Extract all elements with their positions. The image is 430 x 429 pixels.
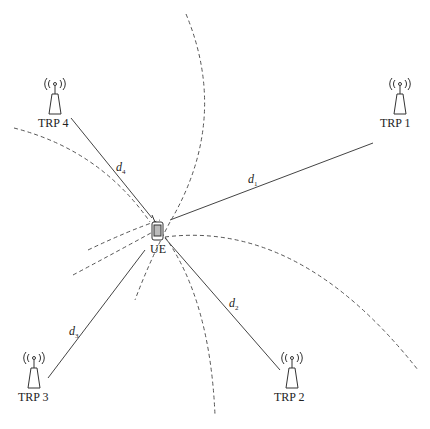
trp4-antenna-icon [45, 78, 66, 114]
range-arc-trp1 [135, 14, 205, 300]
distance-line-d3 [48, 250, 145, 378]
trp1-antenna-icon [390, 78, 411, 114]
positioning-diagram: TRP 1 TRP 2 TRP 3 TRP 4 UE d1 d2 d3 d4 [0, 0, 430, 429]
distance-line-d2 [165, 238, 280, 370]
trp2-antenna-icon [282, 352, 303, 388]
trp2-label: TRP 2 [274, 390, 305, 405]
trp3-label: TRP 3 [18, 390, 49, 405]
ue-label: UE [150, 242, 166, 257]
diagram-canvas [0, 0, 430, 429]
distance-line-d1 [170, 143, 373, 220]
distance-line-d4 [71, 118, 152, 218]
distance-label-d2: d2 [229, 296, 239, 312]
trp4-label: TRP 4 [38, 116, 69, 131]
range-arc-trp2-outer [165, 235, 418, 370]
distance-label-d4: d4 [116, 160, 126, 176]
distance-label-d3: d3 [69, 324, 79, 340]
range-arc-trp4 [14, 128, 150, 222]
trp1-label: TRP 1 [380, 116, 411, 131]
range-arc-trp2-inner [165, 237, 215, 415]
range-arc-trp3 [73, 220, 160, 275]
trp3-antenna-icon [24, 352, 45, 388]
distance-label-d1: d1 [248, 172, 258, 188]
ue-phone-icon [152, 215, 163, 240]
